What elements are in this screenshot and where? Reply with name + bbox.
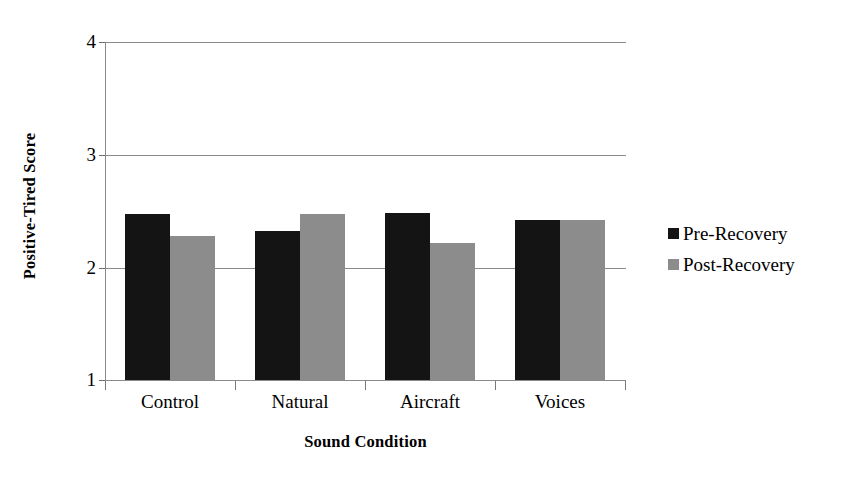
legend-label-post-recovery: Post-Recovery [683, 255, 795, 274]
x-tick-label-aircraft: Aircraft [360, 392, 500, 411]
y-tick-label-3: 3 [62, 145, 96, 164]
bar-chart-figure: Positive-Tired Score 4 3 2 1 Control Nat… [0, 0, 858, 484]
bar-aircraft-pre-recovery [385, 213, 430, 380]
legend-label-pre-recovery: Pre-Recovery [683, 224, 787, 243]
y-tick-label-4: 4 [62, 32, 96, 51]
bar-natural-post-recovery [300, 214, 345, 380]
bar-natural-pre-recovery [255, 231, 300, 380]
x-tick-mark-4 [625, 381, 626, 390]
legend-item-pre-recovery: Pre-Recovery [668, 218, 795, 249]
legend-swatch-pre-recovery [668, 228, 679, 239]
y-axis-title: Positive-Tired Score [20, 101, 40, 311]
chart-legend: Pre-Recovery Post-Recovery [668, 218, 795, 280]
x-tick-mark-0 [105, 381, 106, 390]
y-tick-label-1: 1 [62, 370, 96, 389]
bar-aircraft-post-recovery [430, 243, 475, 380]
legend-swatch-post-recovery [668, 259, 679, 270]
bar-voices-pre-recovery [515, 220, 560, 380]
x-axis-title: Sound Condition [105, 432, 626, 452]
x-tick-mark-2 [365, 381, 366, 390]
bar-control-post-recovery [170, 236, 215, 380]
bar-control-pre-recovery [125, 214, 170, 380]
plot-area [105, 42, 625, 380]
x-tick-label-natural: Natural [230, 392, 370, 411]
x-tick-mark-1 [235, 381, 236, 390]
x-tick-label-control: Control [100, 392, 240, 411]
legend-item-post-recovery: Post-Recovery [668, 249, 795, 280]
x-tick-label-voices: Voices [490, 392, 630, 411]
bar-voices-post-recovery [560, 220, 605, 380]
y-tick-label-2: 2 [62, 258, 96, 277]
x-tick-mark-3 [495, 381, 496, 390]
